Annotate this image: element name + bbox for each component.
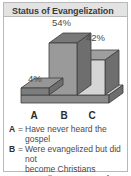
- bar-chart-plot-area: [4, 17, 127, 109]
- legend-key-a: A: [9, 124, 16, 134]
- bar-c-value-label: 42%: [86, 32, 105, 43]
- legend-equals-a: =: [16, 124, 25, 134]
- bar-a-value-label: 4%: [28, 73, 42, 84]
- page-title: Status of Evangelization: [12, 6, 114, 16]
- base-front-face: [21, 95, 109, 103]
- legend-equals-b: =: [16, 144, 25, 154]
- bar-chart-svg: [4, 17, 127, 109]
- x-axis-label-c: C: [84, 110, 100, 121]
- evangelization-chart-panel: Status of Evangelization 4% 54% 4: [0, 0, 131, 176]
- legend-key-c: C: [9, 174, 16, 176]
- legend-equals-c: =: [16, 174, 25, 176]
- legend-item-b-continued: become Christians: [9, 164, 125, 174]
- panel-title-bar: Status of Evangelization: [3, 2, 128, 17]
- chart-legend: A = Have never heard the gospel B = Were…: [9, 124, 125, 176]
- legend-item-a: A = Have never heard the gospel: [9, 124, 125, 144]
- x-axis-label-a: A: [26, 110, 42, 121]
- legend-item-b: B = Were evangelized but did not: [9, 144, 125, 164]
- legend-item-c: C = Are adherents to any form of: [9, 174, 125, 176]
- legend-text-b-line2: become Christians: [25, 164, 125, 174]
- bar-a-front-face: [21, 88, 49, 95]
- bar-b-value-label: 54%: [52, 17, 71, 28]
- legend-text-a: Have never heard the gospel: [25, 124, 125, 144]
- x-axis-label-b: B: [56, 110, 72, 121]
- legend-key-b: B: [9, 144, 16, 154]
- legend-text-c: Are adherents to any form of: [25, 174, 125, 176]
- legend-text-b: Were evangelized but did not: [25, 144, 125, 164]
